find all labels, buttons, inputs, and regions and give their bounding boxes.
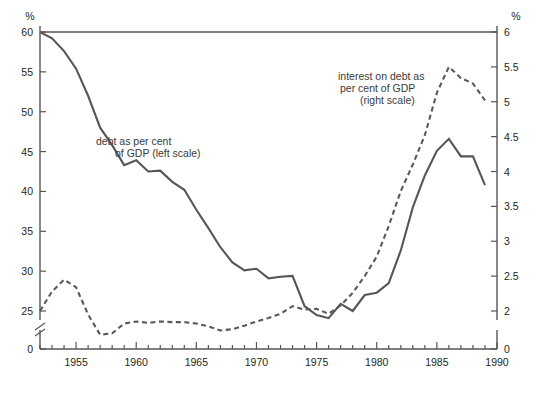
tick-label: 35 <box>21 225 33 237</box>
tick-label: 1965 <box>185 356 209 368</box>
tick-label: 4 <box>504 166 510 178</box>
tick-label: 1960 <box>125 356 149 368</box>
chart-container: % % 02530354045505560 022.533.544.555.56… <box>0 0 554 393</box>
tick-label: 5 <box>504 96 510 108</box>
interest-annotation-line2: per cent of GDP <box>340 82 415 94</box>
x-axis-ticks: 19551960196519701975198019851990 <box>40 342 509 368</box>
tick-label: 1970 <box>245 356 269 368</box>
interest-annotation-line1: interest on debt as <box>338 70 424 82</box>
dual-axis-line-chart: % % 02530354045505560 022.533.544.555.56… <box>0 0 554 393</box>
tick-label: 25 <box>21 305 33 317</box>
tick-label: 0 <box>27 343 33 355</box>
left-axis-ticks: 02530354045505560 <box>21 26 46 355</box>
tick-label: 55 <box>21 66 33 78</box>
tick-label: 45 <box>21 146 33 158</box>
tick-label: 3 <box>504 235 510 247</box>
debt-annotation-line2: of GDP (left scale) <box>115 147 201 159</box>
tick-label: 1975 <box>305 356 329 368</box>
tick-label: 5.5 <box>504 61 519 73</box>
tick-label: 2.5 <box>504 270 519 282</box>
tick-label: 1955 <box>64 356 88 368</box>
tick-label: 2 <box>504 305 510 317</box>
tick-label: 3.5 <box>504 200 519 212</box>
interest-series-line <box>40 67 485 335</box>
right-axis-unit-label: % <box>511 10 520 22</box>
tick-label: 4.5 <box>504 131 519 143</box>
tick-label: 40 <box>21 185 33 197</box>
tick-label: 1980 <box>365 356 389 368</box>
axes-frame <box>35 26 497 349</box>
tick-label: 1990 <box>485 356 509 368</box>
interest-annotation-line3: (right scale) <box>360 94 415 106</box>
tick-label: 60 <box>21 26 33 38</box>
tick-label: 50 <box>21 106 33 118</box>
tick-label: 6 <box>504 26 510 38</box>
tick-label: 1985 <box>425 356 449 368</box>
interest-annotation: interest on debt as per cent of GDP (rig… <box>338 70 424 106</box>
tick-label: 0 <box>504 343 510 355</box>
tick-label: 30 <box>21 265 33 277</box>
right-axis-ticks: 022.533.544.555.56 <box>491 26 519 355</box>
debt-annotation-line1: debt as per cent <box>96 135 171 147</box>
left-axis-unit-label: % <box>25 10 34 22</box>
debt-annotation: debt as per cent of GDP (left scale) <box>96 135 201 159</box>
